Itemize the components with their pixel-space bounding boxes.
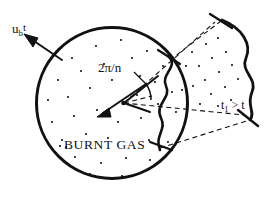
sector-side-upper bbox=[170, 21, 221, 60]
flame-front-near bbox=[158, 56, 172, 150]
radius-arrow-head bbox=[97, 108, 111, 117]
gas-speckles bbox=[47, 37, 239, 177]
near-tick-bottom bbox=[150, 142, 172, 150]
angle-arc-leader bbox=[134, 72, 146, 84]
burnt-gas-label: BURNT GAS bbox=[64, 138, 145, 152]
figure-root: ubt 2π/n BURNT GAS t1 > t bbox=[0, 0, 280, 200]
burnt-gas-circle bbox=[37, 28, 188, 179]
flame-front-near-wave bbox=[158, 56, 172, 150]
radius-arrow bbox=[97, 84, 146, 117]
burn-velocity-arrow-head bbox=[24, 34, 38, 47]
centre-dot bbox=[121, 101, 126, 106]
later-time-label: t1 > t bbox=[221, 99, 245, 114]
burn-velocity-label: ubt bbox=[12, 22, 26, 38]
dashed-ray-upper bbox=[124, 22, 215, 103]
burn-velocity-superscript: t bbox=[23, 21, 26, 33]
sector-side-lower bbox=[160, 120, 250, 148]
centre-ray-marks bbox=[124, 76, 158, 112]
sector-side-dashes bbox=[160, 21, 250, 148]
sector-angle-label: 2π/n bbox=[98, 61, 121, 74]
later-time-relation: > t bbox=[229, 98, 245, 112]
angle-arc bbox=[146, 84, 151, 100]
burn-velocity-arrow bbox=[24, 34, 62, 60]
